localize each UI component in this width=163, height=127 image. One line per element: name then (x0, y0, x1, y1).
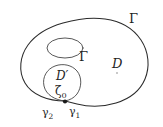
label-base-point-zeta-subscript: 0 (62, 90, 67, 100)
label-inner-hole-boundary: Γ (79, 50, 88, 63)
label-arc-gamma-2: γ2 (42, 107, 53, 121)
label-subdomain-d-prime: D′ (56, 70, 68, 82)
label-arc-gamma-1-subscript: 1 (76, 111, 81, 120)
math-figure: Γ Γ D D′ ζ0 γ2 γ1 (0, 0, 163, 127)
label-base-point-zeta: ζ0 (55, 85, 67, 100)
label-arc-gamma-1: γ1 (69, 106, 80, 120)
label-domain-d: D (112, 57, 122, 70)
interior-dot-icon (116, 72, 117, 73)
label-arc-gamma-2-glyph: γ (42, 106, 49, 119)
label-outer-boundary: Γ (129, 12, 138, 25)
inner-hole-curve (47, 38, 83, 58)
label-arc-gamma-2-subscript: 2 (49, 112, 54, 121)
label-arc-gamma-1-glyph: γ (69, 105, 76, 118)
